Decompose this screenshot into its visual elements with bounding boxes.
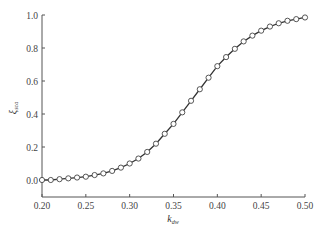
data-point-marker (180, 110, 185, 115)
y-tick-label: 0.6 (26, 77, 38, 87)
data-point-marker (74, 175, 79, 180)
data-point-marker (285, 18, 290, 23)
data-point-marker (39, 177, 44, 182)
data-point-marker (215, 64, 220, 69)
data-point-marker (118, 165, 123, 170)
data-point-marker (188, 98, 193, 103)
data-point-marker (302, 15, 307, 20)
data-point-marker (267, 24, 272, 29)
y-tick-label: 0.2 (26, 143, 38, 153)
data-point-marker (48, 177, 53, 182)
data-point-marker (241, 39, 246, 44)
data-point-marker (110, 168, 115, 173)
x-tick-label: 0.25 (78, 201, 95, 211)
x-tick-label: 0.50 (297, 201, 314, 211)
data-point-marker (232, 46, 237, 51)
data-point-marker (224, 54, 229, 59)
x-tick-label: 0.30 (121, 201, 138, 211)
data-point-marker (294, 17, 299, 22)
x-tick-label: 0.20 (34, 201, 51, 211)
data-point-marker (250, 33, 255, 38)
data-point-marker (92, 172, 97, 177)
data-point-marker (66, 176, 71, 181)
data-point-marker (162, 131, 167, 136)
y-tick-label: 0.0 (26, 176, 38, 186)
series-line (42, 17, 305, 180)
data-point-marker (57, 177, 62, 182)
x-tick-label: 0.35 (165, 201, 182, 211)
y-tick-label: 0.4 (26, 110, 38, 120)
data-point-marker (127, 161, 132, 166)
data-point-marker (83, 174, 88, 179)
y-tick-label: 1.0 (26, 11, 38, 21)
data-point-marker (171, 121, 176, 126)
data-point-marker (276, 21, 281, 26)
data-point-marker (136, 156, 141, 161)
x-tick-label: 0.40 (209, 201, 226, 211)
y-axis-label: ξsca (7, 102, 19, 114)
chart: 0.00.20.40.60.81.00.200.250.300.350.400.… (0, 0, 322, 235)
x-tick-label: 0.45 (253, 201, 270, 211)
x-axis-label: kdw (167, 213, 178, 225)
data-point-marker (101, 171, 106, 176)
data-point-marker (197, 87, 202, 92)
data-point-marker (206, 75, 211, 80)
data-series (39, 15, 307, 183)
data-point-marker (153, 141, 158, 146)
data-point-marker (145, 149, 150, 154)
data-point-marker (259, 28, 264, 33)
y-tick-label: 0.8 (26, 44, 38, 54)
